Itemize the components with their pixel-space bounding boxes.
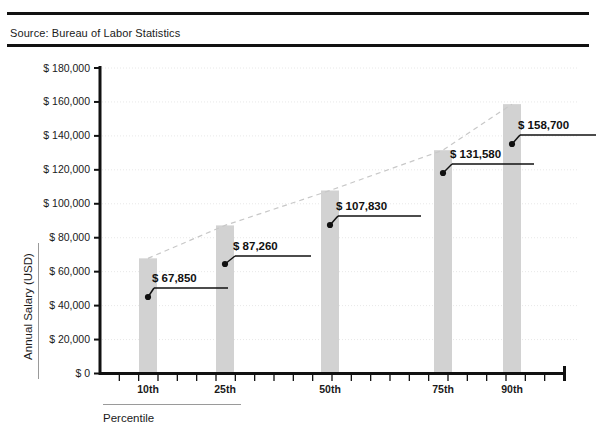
y-axis-title: Annual Salary (USD) [22,227,35,387]
x-tick-label-50th: 50th [300,384,360,395]
x-axis-title: Percentile [103,412,154,425]
salary-percentile-bar-chart: $ 0$ 20,000$ 40,000$ 60,000$ 80,000$ 100… [0,0,596,440]
y-tick-label: $ 0 [0,368,90,379]
y-tick-label: $ 60,000 [0,266,90,277]
value-label-50th: $ 107,830 [336,200,387,212]
value-label-25th: $ 87,260 [233,240,278,252]
y-tick-label: $ 40,000 [0,300,90,311]
x-tick-label-25th: 25th [195,384,255,395]
value-label-10th: $ 67,850 [152,272,197,284]
value-label-90th: $ 158,700 [518,119,569,131]
x-tick-label-90th: 90th [482,384,542,395]
y-tick-label: $ 140,000 [0,130,90,141]
y-tick-label: $ 180,000 [0,63,90,74]
x-tick-label-10th: 10th [118,384,178,395]
value-label-75th: $ 131,580 [450,148,501,160]
bar-25th [216,225,234,373]
y-tick-label: $ 20,000 [0,334,90,345]
y-tick-label: $ 80,000 [0,232,90,243]
bar-75th [434,150,452,373]
chart-page: Source: Bureau of Labor Statistics [0,0,596,440]
bar-series [139,104,521,373]
y-tick-label: $ 100,000 [0,198,90,209]
y-tick-label: $ 160,000 [0,96,90,107]
callout-leaders [145,135,596,300]
x-tick-label-75th: 75th [413,384,473,395]
y-tick-label: $ 120,000 [0,164,90,175]
